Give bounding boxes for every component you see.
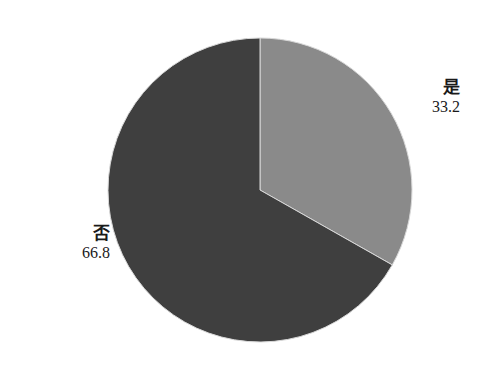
slice-label-yes: 是 33.2	[410, 78, 460, 116]
pie-chart	[0, 0, 487, 366]
slice-category-yes: 是	[410, 78, 460, 97]
slice-category-no: 否	[60, 224, 110, 243]
slice-value-yes: 33.2	[432, 98, 460, 115]
slice-label-no: 否 66.8	[60, 224, 110, 262]
slice-value-no: 66.8	[82, 244, 110, 261]
